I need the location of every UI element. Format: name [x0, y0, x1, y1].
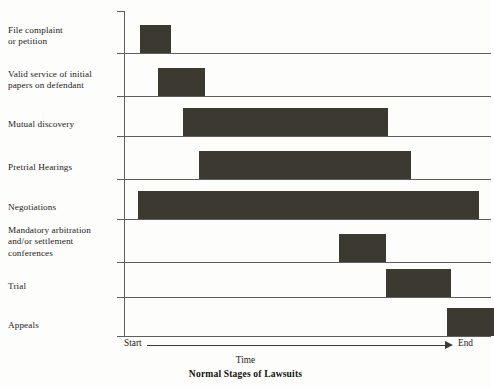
y-axis-tick: [117, 219, 125, 220]
gantt-bar: [339, 234, 386, 262]
y-axis-tick: [117, 179, 125, 180]
y-axis-tick: [117, 336, 125, 337]
time-axis-line: [147, 345, 447, 346]
gantt-bar: [386, 269, 451, 297]
row-baseline: [123, 136, 491, 137]
row-baseline: [123, 297, 491, 298]
row-baseline: [123, 336, 491, 337]
row-baseline: [123, 219, 491, 220]
row-baseline: [123, 96, 491, 97]
y-axis-tick: [117, 53, 125, 54]
gantt-bar: [183, 108, 388, 136]
y-axis-tick: [117, 96, 125, 97]
gantt-bar: [138, 191, 479, 219]
axis-end-label: End: [458, 338, 473, 348]
row-baseline: [123, 262, 491, 263]
y-axis-tick: [117, 136, 125, 137]
gantt-bar: [158, 68, 205, 96]
y-axis-tick: [117, 262, 125, 263]
gantt-bar: [199, 151, 411, 179]
x-axis-label: Time: [0, 355, 491, 365]
gantt-bar: [140, 25, 171, 53]
y-axis-line: [124, 11, 125, 336]
gantt-bar: [447, 308, 494, 336]
axis-start-label: Start: [124, 338, 142, 348]
row-baseline: [123, 53, 491, 54]
time-axis-arrow-icon: [445, 341, 453, 349]
row-baseline: [123, 179, 491, 180]
chart-title: Normal Stages of Lawsuits: [0, 368, 491, 379]
y-axis-top-tick: [117, 11, 125, 12]
y-axis-tick: [117, 297, 125, 298]
